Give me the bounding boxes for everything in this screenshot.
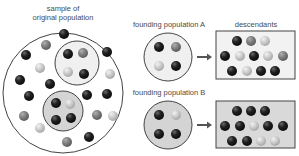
descendants-b-ball-dark xyxy=(235,121,245,131)
founding-b-ball-dark xyxy=(171,129,181,139)
descendants-b-ball-light xyxy=(249,121,259,131)
subgroup-a-ball-dark xyxy=(63,49,73,59)
original-ball-dark xyxy=(102,89,112,99)
founding-b-circle xyxy=(144,101,192,149)
original-ball-dark xyxy=(84,132,94,142)
founding-a-ball-dark xyxy=(154,42,164,52)
original-ball-dark xyxy=(24,91,34,101)
descendants-a-ball-dark xyxy=(232,36,242,46)
descendants-a-ball-dark xyxy=(256,66,266,76)
descendants-a-ball-medium xyxy=(278,51,288,61)
descendants-b-ball-light xyxy=(256,136,266,146)
original-ball-dark xyxy=(82,90,92,100)
original-ball-dark xyxy=(102,47,112,57)
descendants-a-ball-light xyxy=(260,36,270,46)
descendants-b-ball-dark xyxy=(260,106,270,116)
original-ball-dark xyxy=(45,79,55,89)
original-ball-medium xyxy=(92,110,102,120)
descendants-b-ball-dark xyxy=(242,136,252,146)
original-ball-dark xyxy=(59,29,69,39)
descendants-b-ball-dark xyxy=(263,121,273,131)
descendants-a-ball-light xyxy=(235,51,245,61)
subgroup-a-circle xyxy=(55,41,99,85)
founding-b-ball-dark xyxy=(154,129,164,139)
arrow-a-icon xyxy=(197,54,212,61)
descendants-b-ball-dark xyxy=(278,121,288,131)
descendants-a-ball-dark xyxy=(249,51,259,61)
descendants-b-ball-dark xyxy=(220,121,230,131)
founding-a-ball-medium xyxy=(171,42,181,52)
founding-population-b-label: founding population B xyxy=(130,88,208,97)
subgroup-a-ball-light xyxy=(63,67,73,77)
descendants-a-ball-dark xyxy=(270,66,280,76)
subgroup-b-ball-light xyxy=(65,99,75,109)
founding-a-ball-light xyxy=(154,61,164,71)
descendants-a-ball-light xyxy=(263,51,273,61)
original-ball-medium xyxy=(19,111,29,121)
original-ball-light xyxy=(108,111,118,121)
subgroup-b-ball-dark xyxy=(51,98,61,108)
original-ball-medium xyxy=(41,40,51,50)
descendants-b-ball-dark xyxy=(246,106,256,116)
descendants-a-ball-medium xyxy=(246,36,256,46)
descendants-a-ball-dark xyxy=(227,66,237,76)
founding-population-a-label: founding population A xyxy=(130,20,208,29)
subgroup-b-circle xyxy=(43,91,83,131)
original-ball-dark xyxy=(21,50,31,60)
subgroup-b-ball-dark xyxy=(51,115,61,125)
founding-b-ball-dark xyxy=(154,110,164,120)
founding-b-ball-light xyxy=(171,110,181,120)
descendants-b-ball-light xyxy=(270,136,280,146)
descendants-b-ball-dark xyxy=(232,106,242,116)
original-ball-light xyxy=(35,123,45,133)
arrow-b-icon xyxy=(197,122,212,129)
sample-label-line2: original population xyxy=(18,13,108,22)
founding-a-ball-dark xyxy=(171,61,181,71)
descendants-label: descendants xyxy=(226,20,286,29)
descendants-a-ball-dark xyxy=(220,51,230,61)
sample-label-line1: sample of xyxy=(33,4,93,13)
original-ball-light xyxy=(105,69,115,79)
descendants-b-ball-dark xyxy=(227,136,237,146)
founding-a-circle xyxy=(144,33,192,81)
original-ball-light xyxy=(35,63,45,73)
subgroup-b-ball-dark xyxy=(66,113,76,123)
descendants-a-ball-light xyxy=(242,66,252,76)
subgroup-a-ball-medium xyxy=(78,48,88,58)
original-ball-medium xyxy=(62,137,72,147)
subgroup-a-ball-dark xyxy=(79,69,89,79)
original-ball-dark xyxy=(15,75,25,85)
